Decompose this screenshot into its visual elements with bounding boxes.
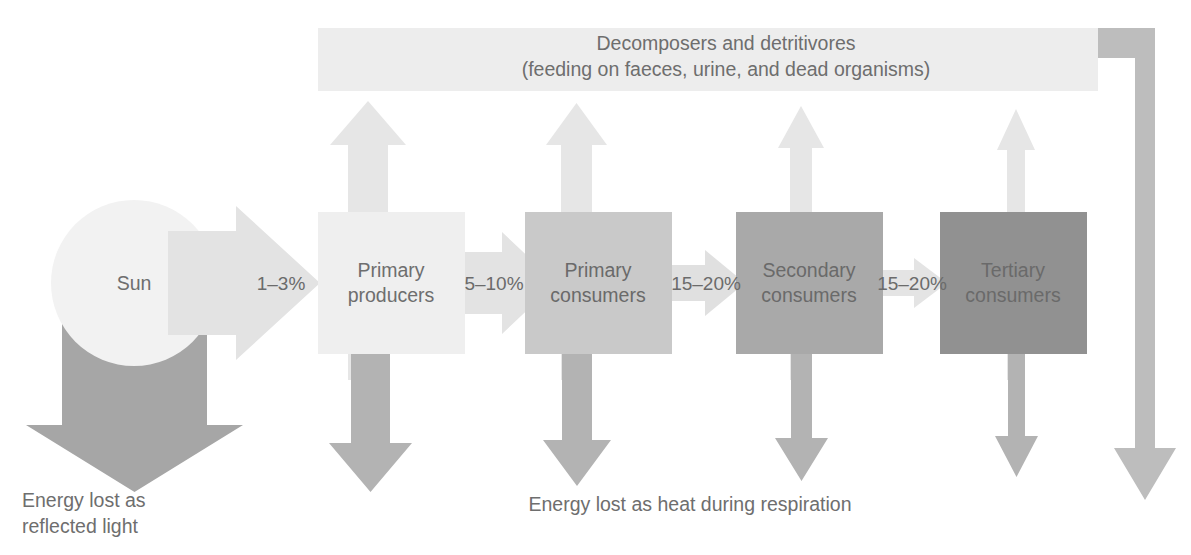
transfer-label-secondary-to-tertiary: 15–20%	[877, 273, 947, 294]
transfer-label-producers-to-primary: 5–10%	[464, 273, 523, 294]
tertiary-consumers-label-line1: Tertiary	[981, 259, 1045, 281]
trophic-box-secondary-consumers: Secondary consumers	[736, 212, 883, 354]
footer-heat-respiration: Energy lost as heat during respiration	[528, 493, 851, 515]
primary-producers-label-line2: producers	[348, 284, 435, 306]
down-arrow-primary-producers	[329, 330, 412, 492]
energy-flow-diagram: p	[0, 0, 1191, 555]
footer-reflected-light-line1: Energy lost as	[22, 489, 146, 511]
primary-consumers-label-line1: Primary	[564, 259, 631, 281]
footer-reflected-light-line2: reflected light	[22, 515, 139, 537]
transfer-label-primary-to-secondary: 15–20%	[671, 273, 741, 294]
sun-label: Sun	[117, 272, 152, 294]
diagram-canvas: Sun Primary producers Primary consumers	[0, 0, 1191, 555]
transfer-label-sun-to-producers: 1–3%	[257, 273, 306, 294]
secondary-consumers-label-line1: Secondary	[762, 259, 855, 281]
trophic-box-tertiary-consumers: Tertiary consumers	[940, 212, 1087, 354]
primary-consumers-label-line2: consumers	[550, 284, 646, 306]
secondary-consumers-label-line2: consumers	[761, 284, 857, 306]
decomposer-bar-line1: Decomposers and detritivores	[596, 32, 855, 54]
primary-producers-label-line1: Primary	[357, 259, 424, 281]
decomposer-return-arrow	[1098, 28, 1176, 500]
trophic-box-primary-producers: Primary producers	[318, 212, 465, 354]
trophic-box-primary-consumers: Primary consumers	[525, 212, 672, 354]
decomposer-bar-line2: (feeding on faeces, urine, and dead orga…	[522, 58, 931, 80]
tertiary-consumers-label-line2: consumers	[965, 284, 1061, 306]
decomposer-bar: Decomposers and detritivores (feeding on…	[318, 28, 1098, 91]
